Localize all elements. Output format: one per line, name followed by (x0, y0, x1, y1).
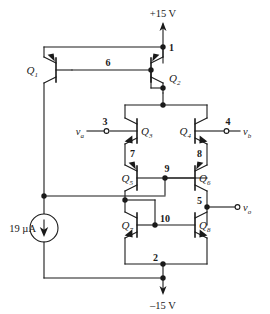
dot-node6 (148, 67, 153, 72)
terminal-va-dot (104, 129, 109, 134)
node-label-2: 2 (153, 252, 158, 263)
label-q4: Q4 (180, 125, 192, 140)
dot-node10-top (122, 197, 127, 202)
dot-tail-bus (160, 102, 165, 107)
dot-node2 (160, 261, 165, 266)
rail-negative-label: –15 V (149, 300, 176, 311)
label-q6: Q6 (199, 172, 211, 187)
transistor-labels: Q1 Q2 Q3 Q4 Q5 Q6 Q7 Q8 (27, 64, 211, 234)
label-q3: Q3 (141, 125, 153, 140)
dot-rail-negative (160, 275, 165, 280)
q8-collector-lead (195, 212, 207, 218)
terminal-label-vb: vb (243, 126, 252, 140)
terminal-label-vo: vo (243, 202, 252, 216)
node-label-4: 4 (226, 116, 231, 127)
current-source-label: 19 µA (9, 223, 36, 234)
terminal-vb-dot (224, 129, 229, 134)
node-label-7: 7 (130, 148, 135, 159)
q3-collector-lead (125, 118, 137, 124)
label-q1: Q1 (27, 64, 38, 79)
q6-collector-lead (195, 185, 207, 191)
q4-collector-lead (195, 118, 207, 124)
circuit-diagram: +15 V –15 V 19 µA Q1 Q2 Q3 Q4 Q5 Q6 Q7 Q… (0, 0, 270, 314)
dot-node9 (162, 175, 167, 180)
node-label-3: 3 (103, 116, 108, 127)
dot-node5 (204, 204, 209, 209)
q7-collector-lead (125, 212, 137, 218)
node-label-5: 5 (197, 195, 202, 206)
node-label-9: 9 (165, 163, 170, 174)
node-label-8: 8 (197, 148, 202, 159)
q3-emitter-arrow (125, 135, 133, 143)
q4-emitter-arrow (199, 135, 207, 143)
q1-collector-lead (44, 77, 56, 83)
label-q7: Q7 (122, 219, 134, 234)
q2-collector-lead (151, 77, 163, 83)
wires (30, 22, 240, 295)
dot-q2-collector (160, 85, 165, 90)
node-label-1: 1 (169, 42, 174, 53)
terminal-vo-dot (235, 205, 240, 210)
label-q5: Q5 (122, 172, 134, 187)
dot-bias-bus (41, 193, 46, 198)
node-label-10: 10 (160, 213, 170, 224)
node-label-6: 6 (106, 57, 111, 68)
schematic-canvas: +15 V –15 V 19 µA Q1 Q2 Q3 Q4 Q5 Q6 Q7 Q… (0, 0, 270, 314)
dot-node10 (152, 222, 157, 227)
rail-positive-label: +15 V (150, 8, 177, 19)
label-q2: Q2 (169, 72, 181, 87)
terminal-label-va: va (76, 126, 85, 140)
dot-node1 (160, 44, 165, 49)
